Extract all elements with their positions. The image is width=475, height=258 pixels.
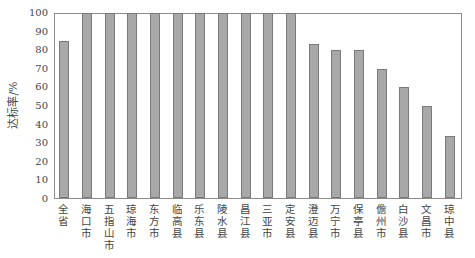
bar: [59, 41, 69, 198]
bar: [286, 13, 296, 198]
bar: [150, 13, 160, 198]
x-tick-label: 乐东县: [192, 203, 206, 239]
y-tick-label: 60: [18, 82, 48, 92]
y-tick-label: 40: [18, 120, 48, 130]
bar: [127, 13, 137, 198]
y-tick-label: 90: [18, 27, 48, 37]
bar: [195, 13, 205, 198]
plot-area: [54, 13, 462, 199]
x-tick-label: 儋州市: [374, 203, 388, 239]
x-tick-label: 保亭县: [351, 203, 365, 239]
x-tick-label: 文昌市: [419, 203, 433, 239]
x-tick-label: 东方市: [147, 203, 161, 239]
y-tick-label: 100: [18, 8, 48, 18]
y-tick-label: 30: [18, 138, 48, 148]
bar: [241, 13, 251, 198]
x-tick-label: 三亚市: [260, 203, 274, 239]
bar: [399, 87, 409, 198]
bar: [445, 136, 455, 198]
y-tick-label: 20: [18, 157, 48, 167]
x-tick-label: 澄迈县: [306, 203, 320, 239]
bar: [82, 13, 92, 198]
y-tick-label: 80: [18, 45, 48, 55]
bar: [218, 13, 228, 198]
bar: [331, 50, 341, 198]
bar: [377, 69, 387, 199]
bar: [422, 106, 432, 199]
x-tick-label: 琼海市: [124, 203, 138, 239]
x-tick-label: 万宁市: [328, 203, 342, 239]
x-tick-label: 昌江县: [238, 203, 252, 239]
x-tick-label: 定安县: [283, 203, 297, 239]
y-tick-label: 50: [18, 101, 48, 111]
bar: [354, 50, 364, 198]
bar: [173, 13, 183, 198]
x-tick-label: 陵水县: [215, 203, 229, 239]
x-tick-label: 五指山市: [102, 203, 116, 251]
x-tick-label: 临高县: [170, 203, 184, 239]
x-tick-label: 全省: [56, 203, 70, 227]
bar: [263, 13, 273, 198]
bar-chart: 达标率/% 0102030405060708090100 全省海口市五指山市琼海…: [0, 0, 475, 258]
y-tick-label: 10: [18, 175, 48, 185]
bar: [105, 13, 115, 198]
bar: [309, 44, 319, 198]
x-tick-label: 琼中县: [442, 203, 456, 239]
y-tick-label: 0: [18, 194, 48, 204]
y-tick-label: 70: [18, 64, 48, 74]
x-tick-label: 白沙县: [396, 203, 410, 239]
x-tick-label: 海口市: [79, 203, 93, 239]
